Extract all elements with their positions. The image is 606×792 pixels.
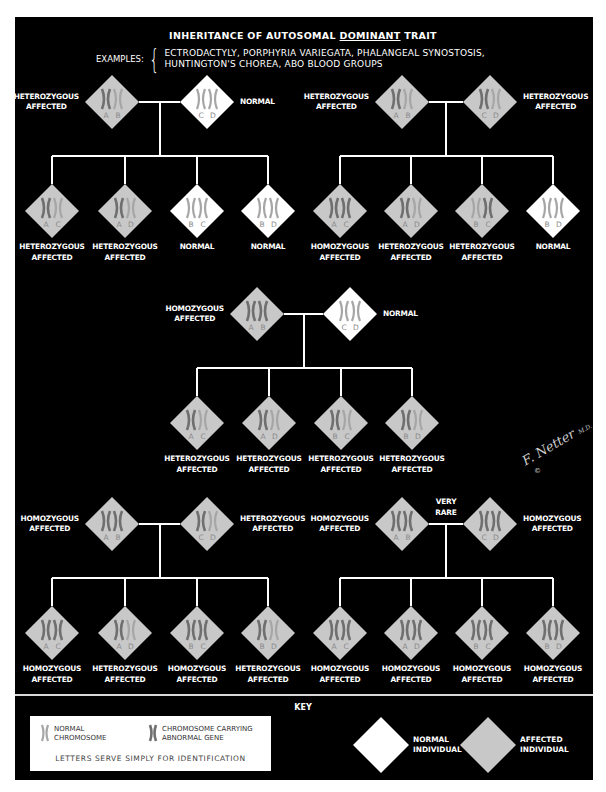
key-diamonds (0, 0, 606, 792)
normal-individual-diamond-icon (353, 717, 409, 773)
key-affected-individual: AFFECTEDINDIVIDUAL (520, 735, 569, 755)
key-normal-individual: NORMALINDIVIDUAL (413, 735, 462, 755)
affected-individual-diamond-icon (460, 717, 516, 773)
